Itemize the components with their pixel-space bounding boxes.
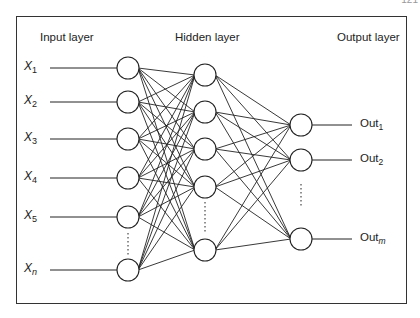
- hidden-node: [194, 138, 216, 160]
- hidden-output-connection: [215, 149, 291, 160]
- input-hidden-connection: [138, 149, 195, 270]
- neural-network-diagram: [0, 0, 420, 318]
- output-label: Out2: [360, 152, 383, 167]
- input-label: X2: [24, 93, 37, 109]
- input-hidden-connection: [138, 250, 195, 270]
- input-hidden-connection: [138, 75, 195, 270]
- input-hidden-connection: [138, 139, 195, 149]
- input-label: X5: [24, 208, 37, 224]
- input-hidden-connection: [138, 75, 195, 102]
- input-node: [117, 259, 139, 281]
- input-node: [117, 57, 139, 79]
- input-node: [117, 167, 139, 189]
- input-hidden-connection: [138, 68, 195, 75]
- output-node: [290, 149, 312, 171]
- input-label: X4: [24, 169, 37, 185]
- hidden-output-connection: [215, 149, 291, 239]
- input-node: [117, 91, 139, 113]
- output-node: [290, 228, 312, 250]
- hidden-output-connection: [215, 125, 291, 187]
- input-node: [117, 206, 139, 228]
- output-label: Out1: [360, 117, 383, 132]
- input-label: Xn: [24, 261, 37, 277]
- hidden-node: [194, 176, 216, 198]
- hidden-output-connection: [215, 125, 291, 149]
- hidden-node: [194, 64, 216, 86]
- hidden-node: [194, 101, 216, 123]
- input-hidden-connection: [138, 75, 195, 139]
- output-label: Outm: [360, 231, 386, 246]
- input-label: X3: [24, 130, 37, 146]
- hidden-output-connection: [215, 112, 291, 160]
- input-node: [117, 128, 139, 150]
- hidden-output-connection: [215, 112, 291, 125]
- output-node: [290, 114, 312, 136]
- hidden-output-connection: [215, 239, 291, 250]
- input-label: X1: [24, 59, 37, 75]
- hidden-node: [194, 239, 216, 261]
- hidden-output-connection: [215, 112, 291, 239]
